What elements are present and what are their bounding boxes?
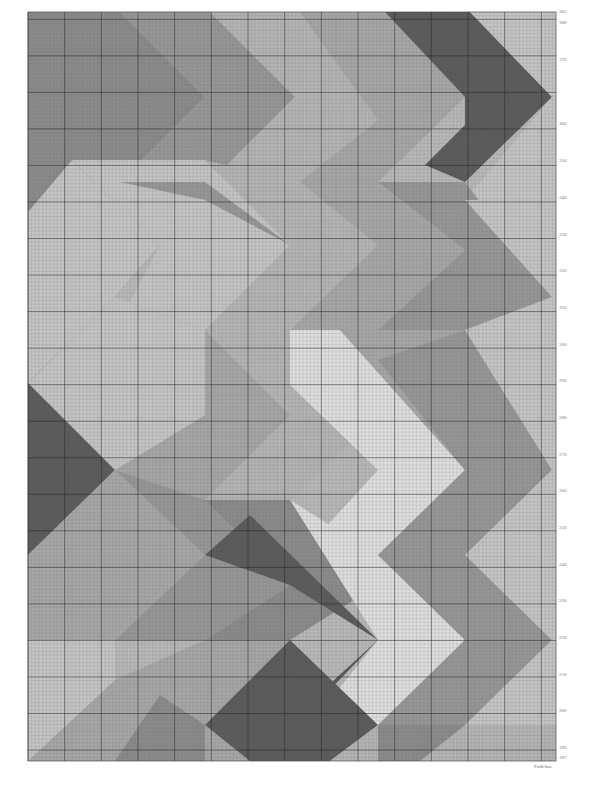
row-number-label: 383	[559, 9, 567, 15]
row-number-label: 340	[559, 195, 567, 201]
row-number-label: 187	[559, 755, 567, 761]
fold-line-label: Fold line	[534, 764, 552, 769]
row-number-label: 310	[559, 305, 567, 311]
knitting-chart	[0, 0, 592, 806]
color-band	[465, 725, 556, 761]
row-number-label: 350	[559, 158, 567, 164]
row-number-label: 200	[559, 708, 567, 714]
row-number-label: 370	[559, 57, 567, 63]
row-number-label: 230	[559, 598, 567, 604]
row-number-label: 240	[559, 562, 567, 568]
row-number-label: 210	[559, 672, 567, 678]
row-number-label: 270	[559, 452, 567, 458]
row-number-label: 190	[559, 745, 567, 751]
row-number-label: 320	[559, 268, 567, 274]
row-number-label: 360	[559, 121, 567, 127]
row-number-label: 330	[559, 232, 567, 238]
row-number-label: 290	[559, 378, 567, 384]
row-number-label: 250	[559, 525, 567, 531]
row-number-label: 260	[559, 488, 567, 494]
row-number-label: 220	[559, 635, 567, 641]
row-number-label: 380	[559, 20, 567, 26]
row-number-label: 280	[559, 415, 567, 421]
row-number-label: 300	[559, 342, 567, 348]
